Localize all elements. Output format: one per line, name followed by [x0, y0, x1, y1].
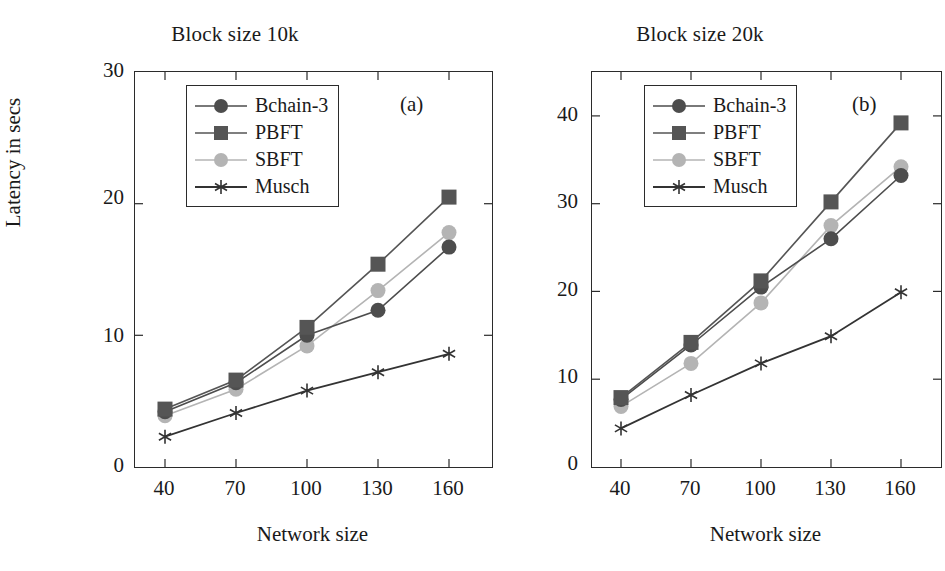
panel-b-xlabel: Network size	[591, 522, 940, 547]
panel-a-bottom-ticks	[165, 459, 449, 467]
panel-a-ytick-30: 30	[62, 60, 124, 81]
panel-b-top-ticks	[621, 72, 901, 80]
legend-marker-bchain-circle-icon	[651, 95, 707, 117]
panel-b-xtick-160: 160	[870, 478, 930, 499]
legend-marker-sbft-circle-icon	[651, 149, 707, 171]
panel-a-legend: Bchain-3 PBFT SBFT	[186, 85, 339, 207]
panel-b-ytick-20: 20	[516, 279, 578, 300]
panel-a-title: Block size 10k	[55, 22, 415, 47]
legend-row-musch: Musch	[651, 173, 786, 200]
panel-b-bottom-ticks	[621, 459, 901, 467]
panel-b-tag: (b)	[852, 92, 877, 117]
panel-a-series-pbft-line	[165, 197, 449, 409]
panel-b-ytick-40: 40	[516, 104, 578, 125]
panel-a-xtick-100: 100	[276, 478, 336, 499]
chart-panel-b: Block size 20k 40 30 20 10 0	[470, 0, 945, 571]
legend-row-bchain: Bchain-3	[193, 92, 328, 119]
panel-b-legend: Bchain-3 PBFT SBFT	[644, 85, 797, 207]
panel-b-ytick-0: 0	[516, 453, 578, 474]
panel-a-ytick-20: 20	[62, 187, 124, 208]
panel-b-title: Block size 20k	[515, 22, 885, 47]
legend-row-pbft: PBFT	[651, 119, 786, 146]
panel-a-xtick-160: 160	[418, 478, 478, 499]
legend-label-pbft: PBFT	[249, 121, 303, 144]
legend-label-pbft: PBFT	[707, 121, 761, 144]
legend-label-sbft: SBFT	[249, 148, 303, 171]
legend-marker-musch-star-icon	[193, 176, 249, 198]
legend-label-musch: Musch	[249, 175, 309, 198]
panel-b-xtick-100: 100	[730, 478, 790, 499]
legend-label-musch: Musch	[707, 175, 767, 198]
legend-marker-pbft-square-icon	[193, 122, 249, 144]
panel-a-series-pbft-markers	[158, 190, 457, 417]
legend-row-sbft: SBFT	[193, 146, 328, 173]
legend-label-bchain: Bchain-3	[249, 94, 328, 117]
legend-marker-sbft-circle-icon	[193, 149, 249, 171]
legend-marker-bchain-circle-icon	[193, 95, 249, 117]
figure-container: Block size 10k Latency in secs 30 20 10 …	[0, 0, 945, 571]
legend-marker-pbft-square-icon	[651, 122, 707, 144]
panel-b-xtick-70: 70	[660, 478, 720, 499]
panel-a-top-ticks	[165, 72, 449, 80]
panel-b-xtick-130: 130	[800, 478, 860, 499]
panel-b-ytick-30: 30	[516, 191, 578, 212]
panel-a-tag: (a)	[400, 92, 423, 117]
panel-a-y-ticks	[135, 204, 492, 336]
legend-row-sbft: SBFT	[651, 146, 786, 173]
legend-row-bchain: Bchain-3	[651, 92, 786, 119]
panel-a-xlabel: Network size	[134, 522, 491, 547]
legend-label-sbft: SBFT	[707, 148, 761, 171]
legend-row-musch: Musch	[193, 173, 328, 200]
panel-b-xtick-40: 40	[590, 478, 650, 499]
panel-a-ytick-0: 0	[62, 455, 124, 476]
legend-row-pbft: PBFT	[193, 119, 328, 146]
legend-label-bchain: Bchain-3	[707, 94, 786, 117]
panel-a-xtick-70: 70	[205, 478, 265, 499]
panel-a-ylabel: Latency in secs	[1, 33, 26, 293]
panel-b-ytick-10: 10	[516, 366, 578, 387]
panel-a-xtick-130: 130	[347, 478, 407, 499]
panel-a-ytick-10: 10	[62, 325, 124, 346]
legend-marker-musch-star-icon	[651, 176, 707, 198]
panel-a-xtick-40: 40	[134, 478, 194, 499]
chart-panel-a: Block size 10k Latency in secs 30 20 10 …	[0, 0, 470, 571]
